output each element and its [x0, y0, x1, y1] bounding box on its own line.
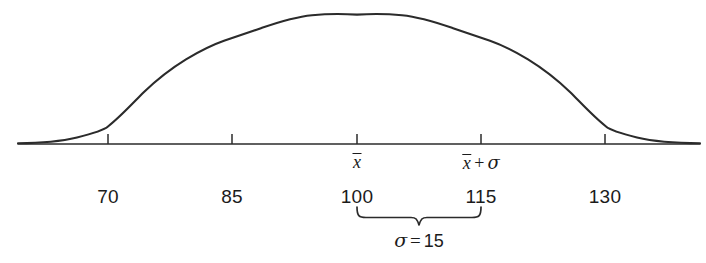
axis-label-70: 70 [97, 186, 119, 208]
sigma-value-label: σ=15 [394, 229, 444, 252]
distribution-plot [0, 0, 706, 263]
sigma-glyph: σ [394, 229, 407, 251]
sigma-glyph: σ [487, 152, 499, 173]
x-bar-glyph: x [353, 152, 362, 173]
mean-symbol-label: x [353, 152, 362, 173]
sigma-value: 15 [424, 231, 444, 251]
axis-label-85: 85 [221, 186, 243, 208]
axis-label-115: 115 [466, 186, 497, 208]
equals-glyph: = [407, 230, 424, 251]
normal-curve-path [18, 14, 700, 143]
axis-label-100: 100 [341, 186, 373, 208]
mean-plus-sigma-symbol-label: x+σ [462, 152, 499, 174]
normal-distribution-figure: x x+σ 70 85 100 115 130 σ=15 [0, 0, 706, 263]
sigma-brace-icon [357, 207, 481, 225]
axis-ticks [108, 134, 605, 144]
x-bar-glyph: x [462, 153, 471, 174]
axis-label-130: 130 [589, 186, 621, 208]
plus-operator-glyph: + [471, 153, 487, 173]
